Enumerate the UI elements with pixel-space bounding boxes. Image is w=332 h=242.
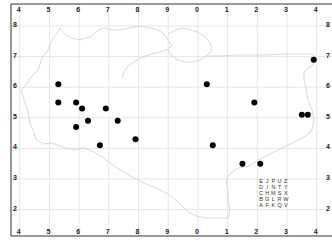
x-tick-label: 6 <box>76 228 80 235</box>
y-tick-label: 2 <box>326 205 330 212</box>
data-point <box>257 161 263 167</box>
y-tick-label: 3 <box>326 174 330 181</box>
x-tick-label: 4 <box>17 228 21 235</box>
letter-key-grid: EJPUZDINTYCHMSXBGLRWAFKQV <box>259 178 289 208</box>
x-tick-label: 8 <box>136 228 140 235</box>
x-axis-bottom-labels: 45678901234 <box>17 228 318 235</box>
x-tick-label: 9 <box>165 228 169 235</box>
key-letter: F <box>266 202 270 208</box>
x-tick-label: 2 <box>254 6 258 13</box>
data-point <box>311 57 317 63</box>
y-tick-label: 7 <box>13 52 17 59</box>
grid-map: EJPUZDINTYCHMSXBGLRWAFKQV 45678901234 45… <box>0 0 332 242</box>
x-tick-label: 1 <box>225 6 229 13</box>
x-tick-label: 3 <box>284 6 288 13</box>
x-tick-label: 5 <box>46 228 50 235</box>
y-tick-label: 4 <box>326 143 330 150</box>
data-point <box>97 142 103 148</box>
x-tick-label: 4 <box>17 6 21 13</box>
data-point <box>299 112 305 118</box>
y-tick-label: 7 <box>326 52 330 59</box>
x-tick-label: 0 <box>195 6 199 13</box>
data-point <box>239 161 245 167</box>
y-tick-label: 5 <box>13 113 17 120</box>
y-tick-label: 8 <box>13 21 17 28</box>
data-point <box>85 118 91 124</box>
data-point <box>55 81 61 87</box>
x-tick-label: 3 <box>284 228 288 235</box>
x-tick-label: 1 <box>225 228 229 235</box>
key-letter: V <box>284 202 288 208</box>
x-tick-label: 6 <box>76 6 80 13</box>
data-point <box>55 100 61 106</box>
x-tick-label: 4 <box>314 228 318 235</box>
x-tick-label: 5 <box>46 6 50 13</box>
data-point <box>73 100 79 106</box>
y-axis-right-labels: 8765432 <box>326 21 330 212</box>
data-point <box>204 81 210 87</box>
y-tick-label: 6 <box>13 82 17 89</box>
y-tick-label: 8 <box>326 21 330 28</box>
data-point <box>210 142 216 148</box>
data-point <box>115 118 121 124</box>
data-point <box>251 100 257 106</box>
data-point <box>133 136 139 142</box>
y-tick-label: 6 <box>326 82 330 89</box>
x-tick-label: 7 <box>106 6 110 13</box>
y-tick-label: 5 <box>326 113 330 120</box>
x-tick-label: 8 <box>136 6 140 13</box>
x-tick-label: 2 <box>254 228 258 235</box>
data-point <box>73 124 79 130</box>
key-letter: Q <box>277 202 282 208</box>
data-point <box>79 106 85 112</box>
y-tick-label: 4 <box>13 143 17 150</box>
y-axis-left-labels: 8765432 <box>13 21 17 212</box>
x-tick-label: 4 <box>314 6 318 13</box>
x-tick-label: 9 <box>165 6 169 13</box>
data-point <box>305 112 311 118</box>
x-tick-label: 7 <box>106 228 110 235</box>
data-point <box>103 106 109 112</box>
key-letter: K <box>272 202 276 208</box>
x-tick-label: 0 <box>195 228 199 235</box>
y-tick-label: 2 <box>13 205 17 212</box>
key-letter: A <box>259 202 263 208</box>
y-tick-label: 3 <box>13 174 17 181</box>
x-axis-top-labels: 45678901234 <box>17 6 318 13</box>
